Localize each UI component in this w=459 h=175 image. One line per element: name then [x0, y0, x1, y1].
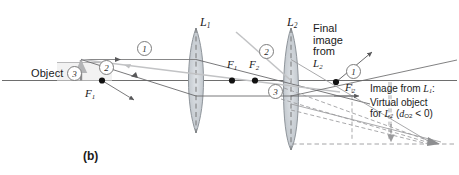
lens-l2-letter: L — [287, 15, 294, 29]
dot-f2-right — [333, 79, 339, 85]
ray-number-2-upper: 2 — [259, 44, 274, 59]
final-image-line-4: L2 — [313, 58, 343, 72]
final-image-line-1: Final — [313, 23, 343, 35]
lens-l1-letter: L — [200, 15, 207, 29]
lens-l2-label: L2 — [287, 16, 297, 29]
ray-number-2: 2 — [99, 60, 114, 75]
ray-3-lower-branch — [102, 81, 134, 101]
dot-f1-right — [229, 77, 235, 83]
dot-f2-left — [252, 77, 258, 83]
focal-point-dots — [99, 77, 339, 85]
virtual-object-annotation: Image from L1: Virtual object for L2 (dO… — [370, 83, 435, 122]
ray-number-1: 1 — [137, 41, 152, 56]
ray-number-3-lower: 3 — [268, 84, 283, 99]
object-label: Object — [31, 68, 63, 79]
ray-number-3: 3 — [67, 66, 82, 81]
virtual-object-line-3: for L2 (dO2 < 0) — [370, 108, 435, 122]
focal-label-f1-left: F1 — [85, 88, 95, 100]
virtual-object-line-1: Image from L1: — [370, 83, 435, 97]
panel-label: (b) — [83, 150, 98, 162]
lens-l1-label: L1 — [200, 16, 210, 29]
lens-l1 — [189, 28, 204, 133]
final-image-annotation: Final image from L2 — [313, 23, 343, 72]
figure-canvas: Object L1 L2 F1 F1 F2 F2 Final image fro… — [0, 0, 459, 175]
ray-2-path — [81, 60, 340, 93]
dot-f1-left — [99, 77, 105, 83]
focal-label-f2-left: F2 — [249, 59, 259, 71]
lens-l2-subscript: 2 — [294, 21, 298, 30]
focal-label-f1-right: F1 — [227, 59, 237, 71]
focal-label-f2-right: F2 — [345, 82, 355, 94]
lens-l1-subscript: 1 — [207, 21, 211, 30]
virtual-object-line-2: Virtual object — [370, 97, 435, 108]
ray-number-1-final: 1 — [346, 64, 361, 79]
